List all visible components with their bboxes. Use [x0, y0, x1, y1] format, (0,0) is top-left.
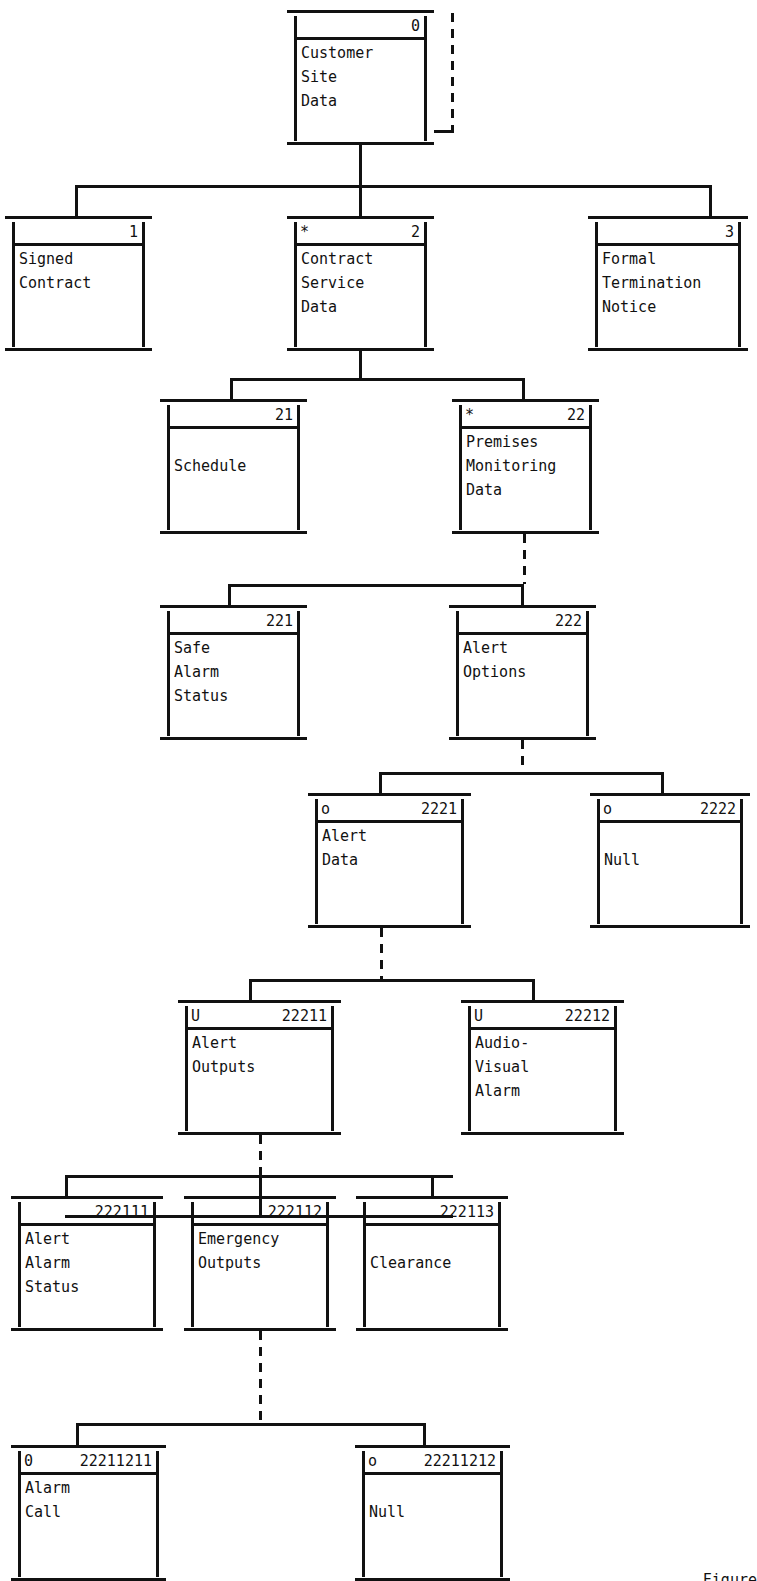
node-text-line: Outputs — [192, 1055, 331, 1079]
node-221[interactable]: 221SafeAlarmStatus — [160, 605, 307, 740]
node-body: Null — [597, 823, 743, 924]
connector-bus-n2221-children — [249, 979, 533, 982]
node-top-rule — [287, 216, 434, 219]
node-number: 22212 — [565, 1009, 610, 1024]
connector-n2-down — [359, 351, 362, 378]
node-1[interactable]: 1SignedContract — [5, 216, 152, 351]
node-body: FormalTerminationNotice — [595, 246, 741, 347]
node-bottom-rule — [11, 1328, 163, 1331]
node-21[interactable]: 21Schedule — [160, 399, 307, 534]
node-bottom-rule — [287, 142, 434, 145]
node-number: 222113 — [440, 1205, 494, 1220]
node-text-line: Termination — [602, 271, 738, 295]
node-2221[interactable]: o2221AlertData — [308, 793, 471, 928]
node-header: 21 — [167, 405, 300, 429]
node-top-rule — [449, 605, 596, 608]
connector-bus-n2-children — [230, 378, 525, 381]
connector-bus-row7 — [76, 1423, 426, 1426]
node-222[interactable]: 222AlertOptions — [449, 605, 596, 740]
node-header: o2222 — [597, 799, 743, 823]
node-text-line: Call — [25, 1500, 156, 1524]
node-body: Audio-VisualAlarm — [468, 1030, 617, 1131]
node-header: 222111 — [18, 1202, 156, 1226]
node-top-rule — [5, 216, 152, 219]
node-text-line: Audio- — [475, 1031, 614, 1055]
node-3[interactable]: 3FormalTerminationNotice — [588, 216, 748, 351]
node-text-line: Data — [466, 478, 589, 502]
node-header: U22211 — [185, 1006, 334, 1030]
node-marker: * — [465, 408, 474, 423]
node-22212[interactable]: U22212Audio-VisualAlarm — [461, 1000, 624, 1135]
node-body: AlertOutputs — [185, 1030, 334, 1131]
node-number: 22211 — [282, 1009, 327, 1024]
node-text-line: Status — [25, 1275, 153, 1299]
connector-n22211-down-dashed — [259, 1135, 262, 1175]
node-number: 2 — [411, 225, 420, 240]
node-marker: U — [191, 1009, 200, 1024]
node-bottom-rule — [160, 531, 307, 534]
node-number: 2222 — [700, 802, 736, 817]
node-body: SignedContract — [12, 246, 145, 347]
node-marker: 0 — [24, 1454, 33, 1469]
node-body: Schedule — [167, 429, 300, 530]
node-top-rule — [287, 10, 434, 13]
node-header: 222112 — [191, 1202, 329, 1226]
node-bottom-rule — [160, 737, 307, 740]
node-body: CustomerSiteData — [294, 40, 427, 141]
node-0[interactable]: 0CustomerSiteData — [287, 10, 434, 145]
node-bottom-rule — [184, 1328, 336, 1331]
node-number: 21 — [275, 408, 293, 423]
connector-drop-n22211 — [249, 979, 252, 1000]
node-text-line: Notice — [602, 295, 738, 319]
figure-caption: Figure Example Data — [600, 1523, 757, 1581]
node-22211212[interactable]: o22211212Null — [355, 1445, 510, 1581]
node-text-line: Alarm — [25, 1251, 153, 1275]
node-text-line — [604, 824, 740, 848]
connector-drop-n2 — [359, 185, 362, 216]
node-22211211[interactable]: 022211211AlarmCall — [11, 1445, 166, 1581]
node-text-line: Site — [301, 65, 424, 89]
node-bottom-rule — [461, 1132, 624, 1135]
connector-n222112-down-dashed — [259, 1331, 262, 1423]
node-body: AlertAlarmStatus — [18, 1226, 156, 1327]
node-2222[interactable]: o2222Null — [590, 793, 750, 928]
node-body: EmergencyOutputs — [191, 1226, 329, 1327]
node-number: 222 — [555, 614, 582, 629]
node-top-rule — [590, 793, 750, 796]
node-text-line: Contract — [301, 247, 424, 271]
node-text-line: Contract — [19, 271, 142, 295]
node-222113[interactable]: 222113Clearance — [356, 1196, 508, 1331]
node-text-line: Visual — [475, 1055, 614, 1079]
node-text-line — [369, 1476, 500, 1500]
connector-n222-down-dashed — [521, 740, 524, 772]
node-body: SafeAlarmStatus — [167, 635, 300, 736]
node-text-line: Formal — [602, 247, 738, 271]
node-top-rule — [356, 1196, 508, 1199]
node-header: 022211211 — [18, 1451, 159, 1475]
node-top-rule — [160, 605, 307, 608]
node-bottom-rule — [5, 348, 152, 351]
connector-drop-n22212 — [532, 979, 535, 1000]
node-2[interactable]: *2ContractServiceData — [287, 216, 434, 351]
node-marker: * — [300, 225, 309, 240]
node-text-line: Options — [463, 660, 586, 684]
root-annotation-bracket-vertical — [451, 13, 454, 133]
node-text-line — [322, 872, 461, 896]
node-222112[interactable]: 222112EmergencyOutputs — [184, 1196, 336, 1331]
connector-drop-22211211 — [76, 1423, 79, 1445]
node-body: ContractServiceData — [294, 246, 427, 347]
node-body: Clearance — [363, 1226, 501, 1327]
node-text-line: Clearance — [370, 1251, 498, 1275]
node-22211[interactable]: U22211AlertOutputs — [178, 1000, 341, 1135]
node-bottom-rule — [452, 531, 599, 534]
node-222111[interactable]: 222111AlertAlarmStatus — [11, 1196, 163, 1331]
node-text-line: Alert — [25, 1227, 153, 1251]
node-text-line: Signed — [19, 247, 142, 271]
node-22[interactable]: *22PremisesMonitoringData — [452, 399, 599, 534]
node-bottom-rule — [178, 1132, 341, 1135]
node-text-line: Status — [174, 684, 297, 708]
node-text-line: Alert — [463, 636, 586, 660]
diagram-canvas: 0CustomerSiteData1SignedContract*2Contra… — [0, 0, 757, 1581]
node-header: 3 — [595, 222, 741, 246]
node-body: AlertOptions — [456, 635, 589, 736]
